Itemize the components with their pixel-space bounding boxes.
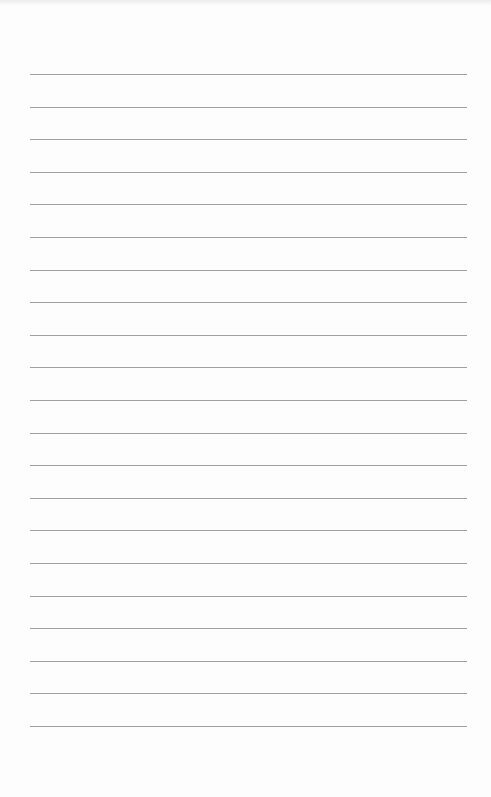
ruled-line xyxy=(30,270,467,271)
ruled-line xyxy=(30,530,467,531)
ruled-line xyxy=(30,693,467,694)
ruled-line xyxy=(30,726,467,727)
ruled-line xyxy=(30,596,467,597)
ruled-line xyxy=(30,563,467,564)
ruled-line xyxy=(30,465,467,466)
ruled-line xyxy=(30,367,467,368)
ruled-line xyxy=(30,433,467,434)
ruled-line xyxy=(30,661,467,662)
ruled-line xyxy=(30,400,467,401)
ruled-line xyxy=(30,74,467,75)
ruled-line xyxy=(30,139,467,140)
lined-paper-page xyxy=(0,0,491,797)
ruled-line xyxy=(30,335,467,336)
ruled-line xyxy=(30,628,467,629)
page-top-edge xyxy=(0,0,491,6)
ruled-line xyxy=(30,204,467,205)
ruled-line xyxy=(30,107,467,108)
ruled-line xyxy=(30,302,467,303)
ruled-line xyxy=(30,172,467,173)
ruled-line xyxy=(30,237,467,238)
ruled-line xyxy=(30,498,467,499)
